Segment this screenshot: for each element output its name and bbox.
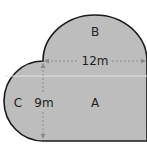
height-label: 9m [34, 96, 53, 110]
composite-shape [4, 15, 147, 141]
compound-shape-diagram: B 12m C 9m A [0, 0, 147, 146]
region-label-a: A [91, 96, 100, 110]
width-label: 12m [82, 54, 109, 68]
region-label-c: C [14, 96, 22, 110]
region-label-b: B [91, 25, 99, 39]
